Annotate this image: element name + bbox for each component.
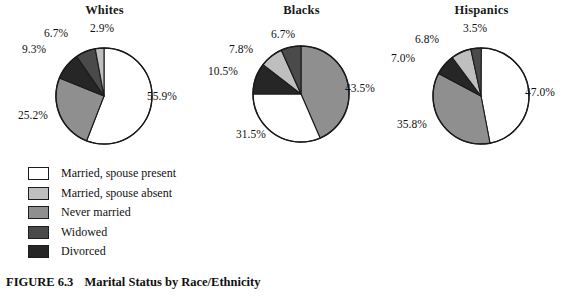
slice-label-blacks-married-spouse-absent: 7.8% [229,43,253,55]
legend-label: Divorced [61,245,106,258]
legend-label: Widowed [61,226,107,239]
legend-item-never-married: Never married [28,203,278,223]
slice-label-hispanics-married-spouse-present: 47.0% [525,86,555,98]
slice-label-hispanics-married-spouse-absent: 6.8% [415,33,439,45]
slice-label-whites-married-spouse-absent: 2.9% [90,22,114,34]
pie-panel-whites: Whites 55.9% 25.2% 9.3% 6.7% 2.9% [8,0,201,160]
legend-label: Married, spouse absent [61,187,172,200]
slice-label-whites-widowed: 6.7% [44,27,68,39]
slice-label-blacks-married-spouse-present: 31.5% [236,128,266,140]
legend-item-married-spouse-absent: Married, spouse absent [28,184,278,204]
legend: Married, spouse present Married, spouse … [28,164,278,262]
pie-panel-hispanics: Hispanics 47.0% 35.8% 7.0% 6.8% 3.5% [385,0,578,160]
pie-chart-blacks [205,0,398,160]
slice-label-hispanics-divorced: 7.0% [391,52,415,64]
slice-label-whites-married-spouse-present: 55.9% [147,90,177,102]
slice-label-blacks-divorced: 10.5% [208,65,238,77]
slice-label-whites-never-married: 25.2% [18,109,48,121]
legend-swatch-icon [28,245,49,258]
legend-swatch-icon [28,167,49,180]
slice-label-hispanics-never-married: 35.8% [397,118,427,130]
legend-swatch-icon [28,226,49,239]
legend-label: Married, spouse present [61,167,176,180]
slice-label-blacks-never-married: 43.5% [345,82,375,94]
legend-label: Never married [61,206,131,219]
figure-container: Whites 55.9% 25.2% 9.3% 6.7% 2.9% Blacks… [0,0,583,297]
figure-caption: FIGURE 6.3Marital Status by Race/Ethnici… [6,275,260,290]
legend-swatch-icon [28,206,49,219]
pie-panel-blacks: Blacks 43.5% 31.5% 10.5% 7.8% 6.7% [205,0,398,160]
legend-item-married-spouse-present: Married, spouse present [28,164,278,184]
slice-label-whites-divorced: 9.3% [22,43,46,55]
legend-item-divorced: Divorced [28,242,278,262]
legend-item-widowed: Widowed [28,223,278,243]
pie-slice [481,48,529,143]
figure-number: FIGURE 6.3 [6,275,73,289]
figure-caption-title: Marital Status by Race/Ethnicity [84,275,260,289]
legend-swatch-icon [28,187,49,200]
slice-label-blacks-widowed: 6.7% [271,28,295,40]
slice-label-hispanics-widowed: 3.5% [463,22,487,34]
